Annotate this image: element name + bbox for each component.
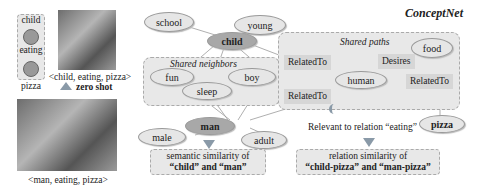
node-school: school xyxy=(144,12,194,32)
node-sleep: sleep xyxy=(182,82,232,100)
relevant-text: Relevant to relation “eating” xyxy=(308,122,417,132)
triple-node-eating: eating xyxy=(13,45,49,55)
relation-relatedto-3: RelatedTo xyxy=(406,74,453,89)
triple-node-pizza: pizza xyxy=(15,81,47,91)
zero-shot-label: zero shot xyxy=(76,82,113,92)
relation-similarity-box: relation similarity of “child-pizza” and… xyxy=(296,149,440,175)
down-arrow-icon xyxy=(203,140,215,149)
relation-line2: “child-pizza” and “man-pizza” xyxy=(297,162,439,172)
relation-line1: relation similarity of xyxy=(297,151,439,161)
node-child: child xyxy=(207,32,257,50)
triple-box: child eating pizza xyxy=(17,14,45,80)
relation-desires: Desires xyxy=(378,54,415,69)
relation-relatedto-2: RelatedTo xyxy=(284,89,331,104)
node-man: man xyxy=(185,117,235,135)
node-male: male xyxy=(138,128,186,146)
node-food: food xyxy=(411,38,453,58)
semantic-similarity-box: semantic similarity of “child” and “man” xyxy=(150,149,266,175)
man-eating-pizza-photos xyxy=(17,99,117,171)
circle-icon xyxy=(23,29,39,45)
node-fun: fun xyxy=(150,68,194,86)
shared-paths-title: Shared paths xyxy=(340,37,390,47)
top-caption: <child, eating, pizza> xyxy=(46,72,134,82)
node-human: human xyxy=(335,71,387,89)
triple-node-child: child xyxy=(15,15,47,25)
relation-relatedto-1: RelatedTo xyxy=(284,55,331,70)
curved-arrow-icon xyxy=(329,104,340,114)
child-eating-pizza-photo xyxy=(58,10,116,70)
circle-icon xyxy=(23,61,39,77)
semantic-line2: “child” and “man” xyxy=(151,162,265,172)
semantic-line1: semantic similarity of xyxy=(151,151,265,161)
conceptnet-title: ConceptNet xyxy=(405,6,463,21)
up-arrow-icon xyxy=(60,82,72,90)
shared-neighbors-title: Shared neighbors xyxy=(170,59,237,69)
down-arrow-icon xyxy=(363,138,375,147)
node-adult: adult xyxy=(241,131,287,149)
node-boy: boy xyxy=(228,68,276,86)
bottom-caption: <man, eating, pizza> xyxy=(20,175,116,185)
node-pizza: pizza xyxy=(419,115,465,133)
